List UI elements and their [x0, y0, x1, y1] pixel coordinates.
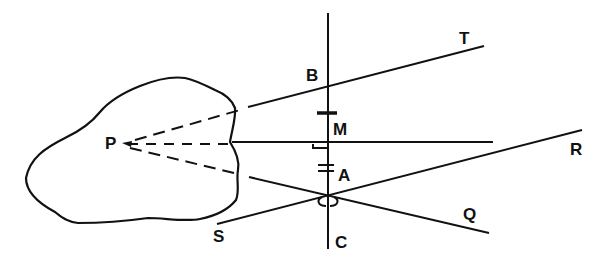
label-q: Q: [463, 206, 476, 223]
label-c: C: [335, 234, 347, 251]
right-angle-mark: [313, 144, 328, 148]
label-r: R: [570, 141, 582, 158]
diagram-canvas: P B M A C T R Q S: [0, 0, 599, 263]
diagram-lines: [0, 0, 599, 263]
label-s: S: [213, 228, 224, 245]
dashed-p-lower: [130, 148, 238, 174]
line-bt: [248, 46, 484, 107]
dashed-p-upper: [135, 110, 240, 140]
label-a: A: [338, 167, 350, 184]
label-b: B: [306, 67, 318, 84]
angle-arc-left: [319, 197, 326, 206]
line-sr: [217, 130, 582, 224]
region-outline: [26, 77, 238, 223]
point-p-marker: [122, 141, 132, 147]
label-m: M: [333, 121, 347, 138]
angle-arc-right: [330, 197, 337, 206]
label-p: P: [105, 135, 116, 152]
label-t: T: [459, 30, 469, 47]
